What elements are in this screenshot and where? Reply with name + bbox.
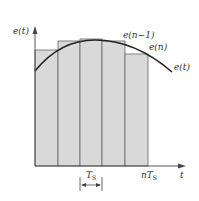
curve-label: e(t)	[174, 62, 190, 72]
y-axis-arrow-icon	[33, 26, 38, 34]
period-label: TS	[86, 170, 96, 181]
label-e-n-minus-1: e(n−1)	[123, 30, 155, 40]
bars	[35, 39, 148, 166]
label-e-n: e(n)	[149, 42, 168, 52]
x-axis-arrow-icon	[178, 164, 186, 169]
arrow-right-icon	[96, 183, 101, 187]
y-axis-label: e(t)	[13, 26, 29, 36]
bar-5	[125, 54, 148, 166]
bar-3	[80, 39, 102, 166]
x-axis-label: t	[180, 170, 184, 180]
end-label: nTS	[141, 170, 157, 181]
bar-2	[58, 41, 80, 166]
arrow-left-icon	[81, 183, 86, 187]
integration-diagram: e(t) e(n−1) e(n) e(t) t TS nTS	[0, 0, 199, 201]
bar-4	[102, 41, 125, 166]
